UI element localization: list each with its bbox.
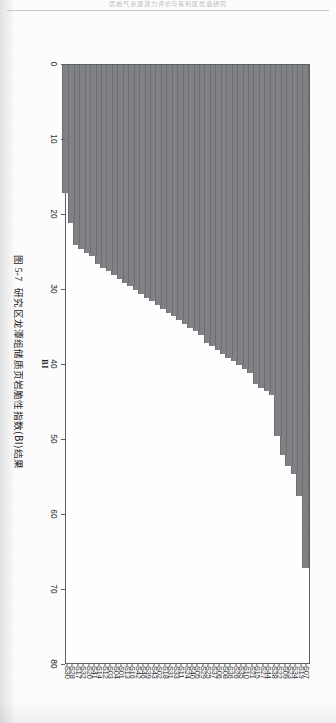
running-head-text: 页岩气资源潜力评价与有利区优选研究 (109, 0, 226, 8)
value-axis-tick-label: 20 (49, 209, 59, 218)
bar-row: S31 (168, 65, 173, 663)
bar-row: S20 (86, 65, 91, 663)
bar-row: S02 (157, 65, 162, 663)
bar-row: S14 (97, 65, 102, 663)
bar-row: S29 (200, 65, 205, 663)
value-axis-tick (61, 214, 65, 215)
bar-row: S36 (227, 65, 232, 663)
value-axis-tick (61, 589, 65, 590)
value-axis-tick-label: 60 (49, 509, 59, 518)
figure-caption-number: 图 5-7 (13, 255, 24, 281)
figure: S07S19S34S23S09S22S38S44S27S15S21S10S35S… (18, 12, 318, 712)
figure-caption-text: 研究区龙潭组储质页岩脆性指数(BI)结果 (13, 288, 24, 469)
value-axis-tick (61, 514, 65, 515)
bar-row: S05 (195, 65, 200, 663)
bar-row: S42 (135, 65, 140, 663)
value-axis-title: BI (40, 359, 50, 369)
bar-row: S35 (238, 65, 243, 663)
bar-row: S23 (287, 65, 292, 663)
bar-row: S19 (298, 65, 303, 663)
category-label: S30 (62, 666, 71, 679)
value-axis-tick (61, 64, 65, 65)
value-axis-tick-label: 50 (49, 434, 59, 443)
bar-row: S32 (80, 65, 85, 663)
bar-row: S09 (282, 65, 287, 663)
bar-row: S33 (173, 65, 178, 663)
bar-row: S17 (75, 65, 80, 663)
bar-row: S24 (184, 65, 189, 663)
header-divider-rule (7, 10, 329, 11)
value-axis-tick-label: 70 (49, 584, 59, 593)
value-axis-tick-label: 0 (49, 62, 59, 67)
bar-row: S38 (271, 65, 276, 663)
bar-row: S34 (293, 65, 298, 663)
value-axis-tick (61, 664, 65, 665)
scanned-page: 页岩气资源潜力评价与有利区优选研究 S07S19S34S23S09S22S38S… (0, 0, 336, 723)
bar-row: S18 (162, 65, 167, 663)
bar-row: S43 (151, 65, 156, 663)
bar-row: S25 (206, 65, 211, 663)
figure-caption: 图 5-7研究区龙潭组储质页岩脆性指数(BI)结果 (12, 255, 26, 469)
bar-row: S07 (304, 65, 309, 663)
bar-row: S46 (140, 65, 145, 663)
bar-row: S13 (124, 65, 129, 663)
bar-row: S22 (276, 65, 281, 663)
bar-row: S06 (217, 65, 222, 663)
bar-row: S37 (211, 65, 216, 663)
value-axis-tick-label: 10 (49, 134, 59, 143)
value-axis-tick (61, 439, 65, 440)
bar-row: S21 (249, 65, 254, 663)
bar-row: S04 (113, 65, 118, 663)
bar-row: S11 (178, 65, 183, 663)
bar-row: S01 (119, 65, 124, 663)
rotated-figure-wrapper: S07S19S34S23S09S22S38S44S27S15S21S10S35S… (18, 12, 318, 712)
bar-row: S41 (91, 65, 96, 663)
bar-row: S16 (129, 65, 134, 663)
value-axis-tick-label: 40 (49, 359, 59, 368)
bar-row: S26 (233, 65, 238, 663)
bar-row: S12 (102, 65, 107, 663)
bar-row: S15 (255, 65, 260, 663)
bar-row: S03 (108, 65, 113, 663)
bar-row: S10 (244, 65, 249, 663)
bar-row: S08 (222, 65, 227, 663)
plot-area: S07S19S34S23S09S22S38S44S27S15S21S10S35S… (65, 64, 310, 664)
bar-row: S40 (189, 65, 194, 663)
bar-row: S44 (266, 65, 271, 663)
value-axis-tick-label: 30 (49, 284, 59, 293)
value-axis-tick (61, 289, 65, 290)
bar-row: S27 (260, 65, 265, 663)
value-axis-tick (61, 364, 65, 365)
bars-layer: S07S19S34S23S09S22S38S44S27S15S21S10S35S… (66, 65, 309, 663)
bar-row: S39 (146, 65, 151, 663)
value-axis-tick (61, 139, 65, 140)
value-axis-tick-label: 80 (49, 659, 59, 668)
bar-row: S28 (70, 65, 75, 663)
